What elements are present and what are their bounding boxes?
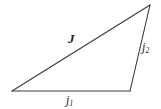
label-J-base: J (68, 31, 75, 46)
label-J: J (68, 32, 75, 45)
label-j1-subscript: 1 (69, 99, 73, 108)
geometry-figure: J j1 j2 (0, 0, 161, 109)
triangle-edge-hypotenuse-J (12, 5, 150, 91)
label-j2: j2 (142, 41, 149, 53)
label-j1: j1 (66, 94, 73, 106)
triangle-diagram (0, 0, 161, 109)
label-j2-subscript: 2 (145, 46, 149, 55)
